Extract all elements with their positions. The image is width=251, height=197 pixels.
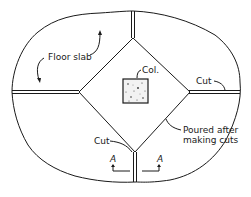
column-leader (137, 70, 141, 78)
cut-left (12, 91, 79, 94)
section-marker-left: A (109, 154, 130, 171)
cut-right (189, 91, 240, 94)
poured-label-line1: Poured after (183, 125, 239, 135)
cut-leader-right (214, 81, 225, 90)
cut-top (132, 11, 135, 38)
floor-slab-label: Floor slab (48, 52, 92, 62)
column-label: Col. (142, 65, 159, 75)
svg-text:A: A (156, 154, 163, 164)
cut-label-right: Cut (196, 76, 212, 86)
cut-bottom (134, 152, 137, 182)
poured-leader (166, 119, 181, 130)
arrow-head (37, 78, 41, 83)
floor-slab-arrow-down (37, 58, 44, 80)
column (123, 79, 148, 103)
cut-leader-left (110, 141, 132, 152)
cut-label-left: Cut (94, 136, 110, 146)
svg-text:A: A (109, 154, 116, 164)
section-marker-right: A (142, 154, 163, 171)
poured-label-line2: making cuts (183, 135, 238, 145)
slab-diagram: Floor slab Col. Cut Cut Poured after mak… (0, 0, 251, 197)
arrow-head (98, 30, 102, 35)
